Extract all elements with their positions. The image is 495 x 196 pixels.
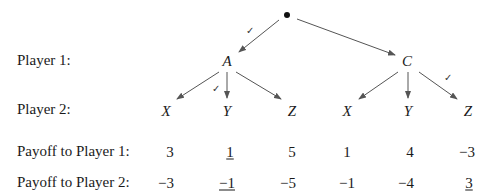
payoff2-A-Y: −1	[219, 175, 235, 192]
label-player-2: Player 2:	[17, 101, 71, 118]
payoff2-A-Z: −5	[280, 175, 296, 192]
payoff1-A-Y: 1	[226, 144, 234, 161]
label-payoff-player-2: Payoff to Player 2:	[17, 174, 130, 191]
payoff1-A-X: 3	[166, 144, 174, 161]
leaf-C-Z: Z	[464, 103, 472, 120]
edge-A-to-Z	[236, 72, 281, 99]
checkmark-icon: ✓	[444, 72, 452, 83]
payoff1-C-Y: 4	[406, 144, 414, 161]
edge-root-to-A	[239, 20, 279, 52]
leaf-A-Z: Z	[288, 103, 296, 120]
node-C: C	[402, 53, 412, 70]
label-payoff-player-1: Payoff to Player 1:	[17, 143, 130, 160]
checkmark-icon: ✓	[212, 83, 220, 94]
payoff1-C-X: 1	[343, 144, 351, 161]
payoff2-C-Y: −4	[398, 175, 414, 192]
edge-C-to-X	[359, 72, 398, 99]
leaf-C-Y: Y	[404, 103, 412, 120]
leaf-C-X: X	[342, 103, 351, 120]
checkmark-icon: ✓	[246, 25, 254, 36]
root-node	[284, 12, 290, 18]
payoff2-A-X: −3	[158, 175, 174, 192]
label-player-1: Player 1:	[17, 52, 71, 69]
payoff1-C-Z: −3	[459, 144, 475, 161]
payoff1-A-Z: 5	[288, 144, 296, 161]
payoff2-C-Z: 3	[465, 175, 473, 192]
leaf-A-X: X	[161, 103, 170, 120]
edge-root-to-C	[297, 19, 395, 55]
leaf-A-Y: Y	[223, 103, 231, 120]
payoff2-C-X: −1	[339, 175, 355, 192]
node-A: A	[222, 53, 231, 70]
